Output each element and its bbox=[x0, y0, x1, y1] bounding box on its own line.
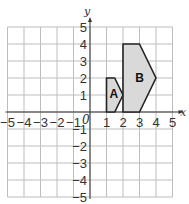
x-tick-label: 3 bbox=[136, 115, 143, 130]
shape-label-B: B bbox=[135, 71, 144, 85]
y-tick-label: 5 bbox=[80, 20, 87, 35]
x-tick-label: −4 bbox=[17, 115, 32, 130]
y-tick-label: −5 bbox=[72, 190, 87, 204]
shape-label-A: A bbox=[110, 87, 119, 101]
x-tick-label: −3 bbox=[33, 115, 48, 130]
x-tick-label: −5 bbox=[0, 115, 15, 130]
y-tick-label: −3 bbox=[72, 156, 87, 171]
y-axis-label: y bbox=[83, 5, 91, 18]
y-tick-label: −2 bbox=[72, 139, 87, 154]
y-tick-label: 4 bbox=[80, 37, 87, 52]
y-tick-label: 2 bbox=[80, 71, 87, 86]
origin-label: 0 bbox=[82, 113, 90, 127]
x-tick-label: 4 bbox=[152, 115, 159, 130]
coordinate-plane: AB −5−4−3−2−11234554321−1−2−3−4−5 x y 0 bbox=[0, 0, 189, 204]
x-tick-label: 1 bbox=[103, 115, 110, 130]
y-tick-label: −4 bbox=[72, 173, 87, 188]
y-tick-label: 3 bbox=[80, 54, 87, 69]
shapes: AB bbox=[107, 44, 157, 112]
x-tick-label: 2 bbox=[119, 115, 126, 130]
x-tick-label: 5 bbox=[169, 115, 176, 130]
x-tick-label: −2 bbox=[50, 115, 65, 130]
y-tick-label: 1 bbox=[80, 88, 87, 103]
x-axis-label: x bbox=[180, 106, 187, 119]
